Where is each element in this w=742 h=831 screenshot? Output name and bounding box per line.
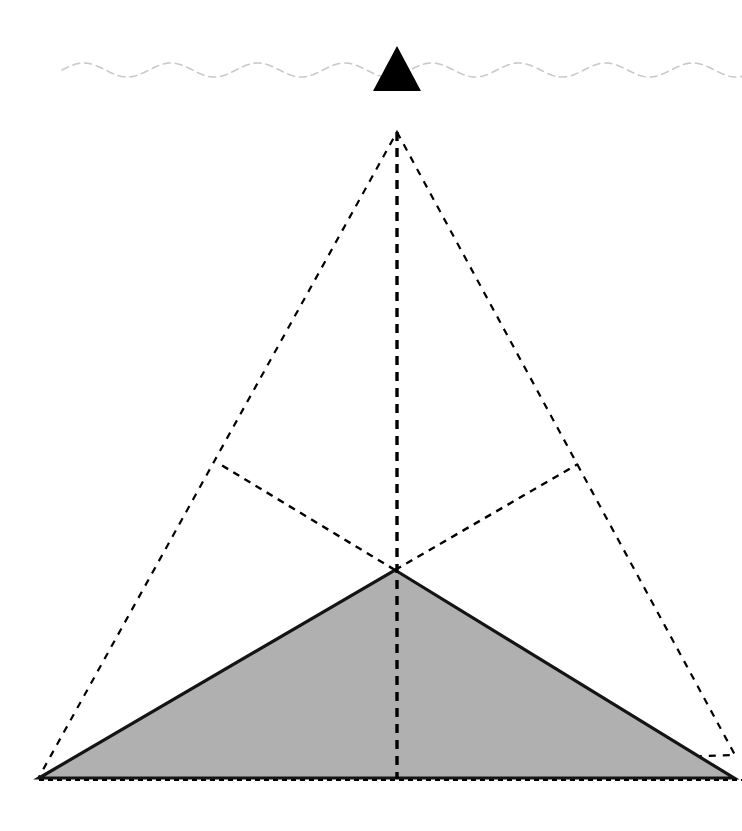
geometry-diagram <box>0 0 742 831</box>
figure-canvas <box>0 0 742 831</box>
